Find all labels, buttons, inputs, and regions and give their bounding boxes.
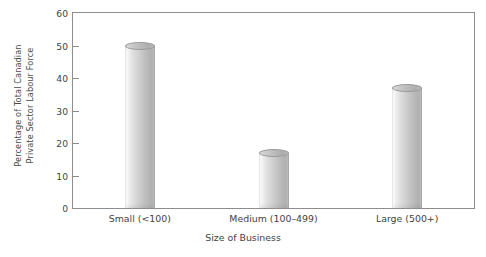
bar-chart-figure: Percentage of Total Canadian Private Sec… bbox=[0, 0, 486, 257]
y-axis-title: Percentage of Total Canadian Private Sec… bbox=[4, 0, 44, 210]
bar-cylinder bbox=[259, 153, 289, 208]
y-axis-tick-label: 0 bbox=[42, 203, 68, 214]
y-axis-tick-label: 10 bbox=[42, 170, 68, 181]
y-axis-tick-label: 30 bbox=[42, 105, 68, 116]
y-axis-title-line-2: Private Sector Labour Force bbox=[24, 44, 36, 166]
y-axis-tick-label: 50 bbox=[42, 40, 68, 51]
y-axis-title-line-1: Percentage of Total Canadian bbox=[13, 44, 23, 166]
y-axis-tick-label: 20 bbox=[42, 138, 68, 149]
x-axis-tick-label: Large (500+) bbox=[376, 213, 438, 224]
y-axis-tick-label: 60 bbox=[42, 8, 68, 19]
bar bbox=[392, 13, 422, 208]
bar-cylinder bbox=[392, 88, 422, 208]
bar bbox=[125, 13, 155, 208]
bar-cylinder bbox=[125, 46, 155, 209]
bar-series bbox=[73, 13, 474, 208]
y-axis-tick-label: 40 bbox=[42, 73, 68, 84]
x-axis-title: Size of Business bbox=[0, 232, 486, 243]
x-axis-tick-label: Small (<100) bbox=[109, 213, 171, 224]
x-axis-tick-label: Medium (100–499) bbox=[229, 213, 317, 224]
bar bbox=[259, 13, 289, 208]
